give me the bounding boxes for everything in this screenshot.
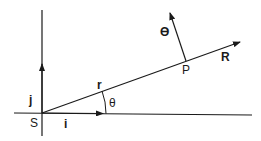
theta-unit-vector (170, 13, 186, 61)
i-label: i (64, 118, 67, 130)
radial-line (42, 42, 240, 113)
r-label: r (97, 79, 102, 91)
transverse-unit-label: ϴ (160, 26, 169, 38)
origin-label: S (30, 117, 38, 129)
angle-arc (102, 91, 106, 114)
point-label: P (182, 64, 190, 76)
i-unit-vector (42, 113, 103, 114)
diagram-lines (0, 0, 261, 141)
radial-unit-label: R (221, 51, 230, 63)
j-label: j (29, 94, 32, 106)
theta-angle-label: θ (109, 97, 116, 109)
polar-coordinates-diagram: S i j r θ P R ϴ (0, 0, 261, 141)
